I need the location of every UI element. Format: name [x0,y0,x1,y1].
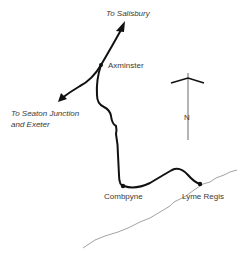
railway-map: To Salisbury Axminster To Seaton Junctio… [0,0,244,255]
label-to-seaton-junction: To Seaton Junction [11,109,80,118]
station-dot-combpyne [121,184,125,188]
compass-label: N [184,113,190,122]
station-dot-lyme-regis [198,182,202,186]
railway-line-lyme-regis-branch [97,65,200,187]
station-label-combpyne: Combpyne [104,192,143,201]
station-label-axminster: Axminster [108,61,144,70]
railway-line-to-salisbury [101,30,121,65]
coastline [83,170,237,248]
station-label-lyme-regis: Lyme Regis [182,192,224,201]
station-dot-axminster [99,63,103,67]
compass-north-icon [171,73,204,140]
label-and-exeter: and Exeter [11,120,50,129]
arrow-north-icon [116,21,125,32]
railway-line-to-exeter [62,65,101,98]
label-to-salisbury: To Salisbury [106,9,151,18]
